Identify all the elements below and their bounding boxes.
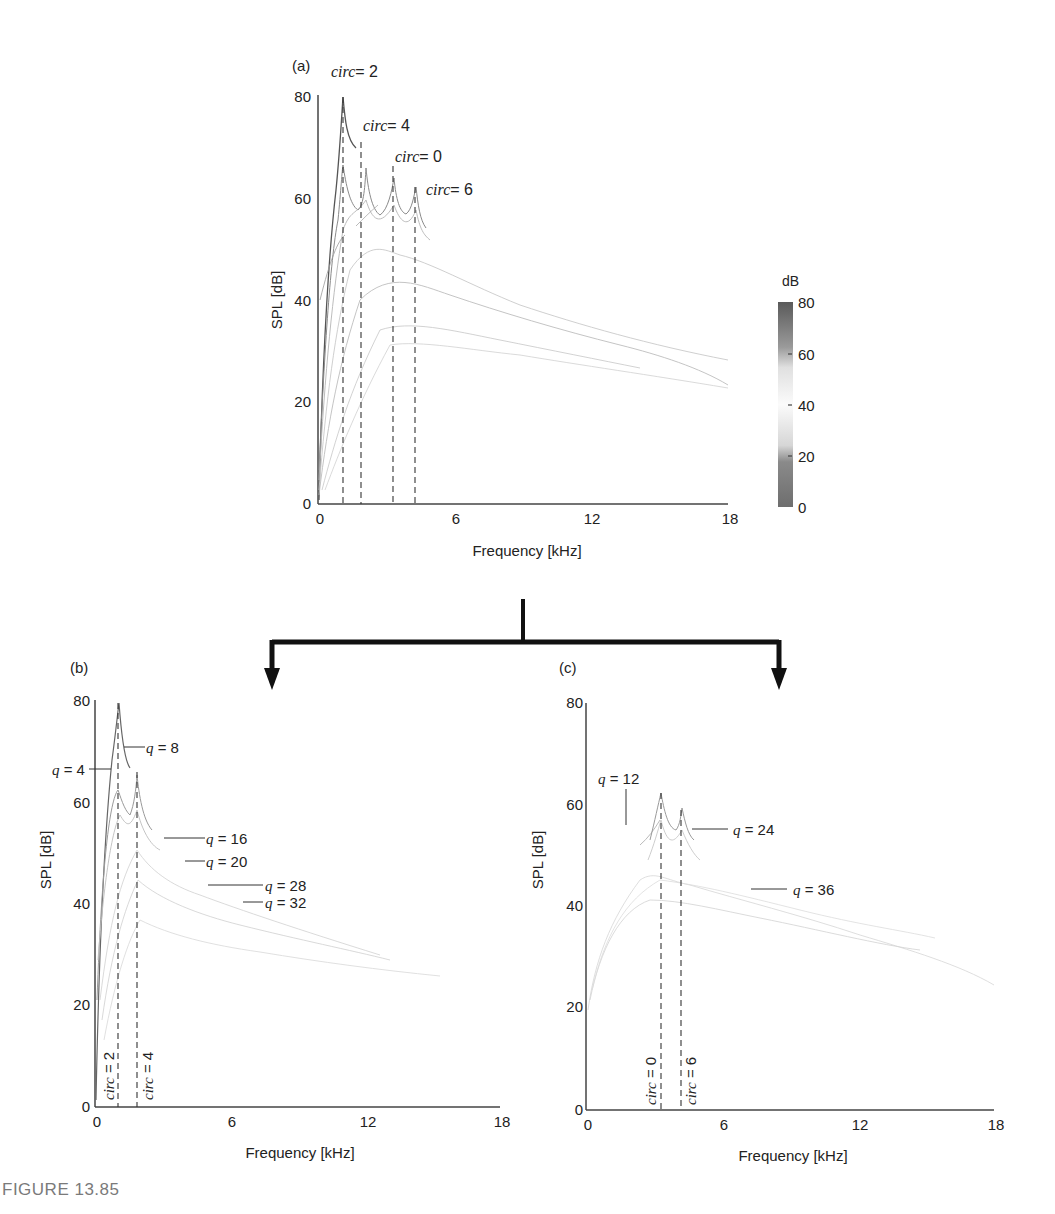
panel-c-curves (588, 793, 994, 1010)
svg-text:40: 40 (798, 397, 815, 414)
colorbar: dB 80 60 40 20 0 (778, 273, 815, 516)
svg-text:40: 40 (73, 895, 90, 912)
label-q-28: q = 28 (265, 877, 306, 894)
panel-b-q-leaders (89, 747, 263, 902)
svg-text:80: 80 (798, 294, 815, 311)
panel-a-x-ticks: 0 6 12 18 (316, 510, 739, 527)
svg-text:0: 0 (316, 510, 324, 527)
svg-text:0: 0 (584, 1116, 592, 1133)
panel-a: (a) 80 60 40 20 0 0 6 12 18 Frequency [k… (268, 57, 738, 559)
panel-c-y-label: SPL [dB] (529, 831, 546, 890)
svg-text:20: 20 (294, 393, 311, 410)
annotation-circ-2: circ= 2 (331, 63, 378, 80)
panel-c-circ-lines (661, 793, 681, 1110)
panel-c-label: (c) (559, 659, 577, 676)
svg-text:6: 6 (452, 510, 460, 527)
svg-text:6: 6 (228, 1113, 236, 1130)
panel-b-y-ticks: 80 60 40 20 0 (73, 692, 90, 1115)
arrow-down-right-icon (771, 668, 787, 690)
panel-b-circ-labels: circ = 2 circ = 4 (100, 1052, 156, 1100)
panel-b-label: (b) (70, 659, 88, 676)
label-q-24: q = 24 (733, 821, 774, 838)
svg-text:0: 0 (303, 495, 311, 512)
svg-text:18: 18 (988, 1116, 1005, 1133)
panel-a-x-label: Frequency [kHz] (472, 542, 581, 559)
svg-text:18: 18 (494, 1113, 511, 1130)
svg-text:80: 80 (294, 88, 311, 105)
label-q-8: q = 8 (146, 739, 179, 756)
svg-text:0: 0 (93, 1113, 101, 1130)
colorbar-ticks: 80 60 40 20 0 (798, 294, 815, 516)
svg-text:80: 80 (566, 694, 583, 711)
annotation-circ-0: circ= 0 (395, 148, 442, 165)
panel-c-x-ticks: 0 6 12 18 (584, 1116, 1005, 1133)
label-q-20: q = 20 (206, 853, 247, 870)
annotation-circ-6: circ = 6 (682, 1057, 699, 1105)
panel-c-x-label: Frequency [kHz] (738, 1147, 847, 1164)
label-q-12: q = 12 (598, 770, 639, 787)
svg-text:20: 20 (566, 998, 583, 1015)
svg-text:18: 18 (722, 510, 739, 527)
panel-b-q-labels: q = 4 q = 8 q = 16 q = 20 q = 28 q = 32 (52, 739, 306, 911)
svg-text:12: 12 (584, 510, 601, 527)
annotation-circ-4: circ= 4 (363, 117, 410, 134)
panel-b-y-label: SPL [dB] (37, 831, 54, 890)
panel-a-y-label: SPL [dB] (268, 271, 285, 330)
panel-a-circ-labels: circ= 2 circ= 4 circ= 0 circ= 6 (331, 63, 473, 198)
panel-a-y-ticks: 80 60 40 20 0 (294, 88, 311, 512)
panel-b-x-ticks: 0 6 12 18 (93, 1113, 511, 1130)
svg-text:60: 60 (294, 190, 311, 207)
svg-text:40: 40 (566, 897, 583, 914)
branch-connector (264, 599, 787, 690)
arrow-down-left-icon (264, 668, 280, 690)
svg-text:80: 80 (73, 692, 90, 709)
svg-text:60: 60 (566, 796, 583, 813)
svg-text:20: 20 (73, 996, 90, 1013)
panel-a-label: (a) (292, 57, 310, 74)
panel-c-circ-labels: circ = 0 circ = 6 (642, 1057, 699, 1105)
svg-text:6: 6 (720, 1116, 728, 1133)
panel-b-x-label: Frequency [kHz] (245, 1144, 354, 1161)
label-q-32: q = 32 (265, 894, 306, 911)
annotation-circ-2: circ = 2 (100, 1052, 117, 1100)
panel-b: (b) 80 60 40 20 0 0 6 12 18 Frequency [k… (37, 659, 510, 1161)
label-q-36: q = 36 (793, 881, 834, 898)
colorbar-title: dB (782, 273, 799, 289)
panel-c: (c) 80 60 40 20 0 0 6 12 18 Frequency [k… (529, 659, 1004, 1164)
annotation-circ-6: circ= 6 (426, 181, 473, 198)
annotation-circ-4: circ = 4 (139, 1052, 156, 1100)
svg-text:12: 12 (852, 1116, 869, 1133)
label-q-4: q = 4 (52, 761, 85, 778)
svg-text:40: 40 (294, 292, 311, 309)
label-q-16: q = 16 (206, 830, 247, 847)
svg-text:60: 60 (73, 794, 90, 811)
svg-text:0: 0 (798, 499, 806, 516)
panel-c-y-ticks: 80 60 40 20 0 (566, 694, 583, 1118)
panel-c-q-labels: q = 12 q = 24 q = 36 (598, 770, 834, 898)
svg-text:60: 60 (798, 346, 815, 363)
svg-text:12: 12 (360, 1113, 377, 1130)
svg-text:0: 0 (575, 1101, 583, 1118)
svg-text:0: 0 (82, 1098, 90, 1115)
figure-caption: FIGURE 13.85 (2, 1180, 120, 1200)
svg-text:20: 20 (798, 448, 815, 465)
panel-a-curves (319, 97, 728, 500)
annotation-circ-0: circ = 0 (642, 1057, 659, 1105)
